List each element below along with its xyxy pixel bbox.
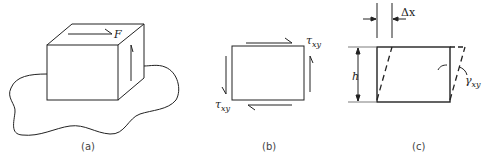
h-arrowhead-top-icon: [356, 48, 360, 54]
shear-arrow-left-barb-icon: [222, 87, 226, 94]
shear-stress-figure: F (a) τxy τxy (b): [0, 0, 483, 168]
delta-x-label: Δx: [401, 6, 416, 19]
force-label: F: [113, 28, 122, 41]
tau-label-top: τxy: [306, 34, 322, 49]
deformed-left-edge: [377, 47, 392, 100]
undeformed-element: [377, 47, 450, 102]
panel-b: [222, 38, 313, 110]
h-label: h: [352, 70, 359, 83]
deformed-right-edge: [450, 47, 465, 100]
h-arrowhead-bottom-icon: [356, 95, 360, 101]
panel-a: [10, 24, 179, 135]
caption-a: (a): [81, 141, 95, 152]
delta-x-arrowhead-left-icon: [371, 17, 376, 21]
delta-x-arrowhead-right-icon: [393, 17, 398, 21]
cube-front-face: [47, 45, 118, 100]
shear-arrow-bottom-barb-icon: [248, 105, 255, 110]
gamma-label: γxy: [465, 74, 481, 89]
stress-element: [232, 46, 304, 100]
shear-arrow-top-barb-icon: [285, 38, 292, 43]
caption-c: (c): [412, 141, 425, 152]
caption-b: (b): [262, 141, 276, 152]
force-arrow-barb-icon: [105, 29, 112, 34]
tau-label-bottom: τxy: [215, 98, 231, 113]
angle-arc-inner-icon: [438, 65, 447, 70]
